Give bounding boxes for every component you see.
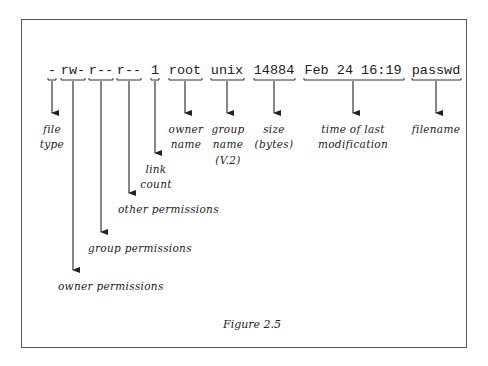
- label-group-name-3: (V.2): [215, 154, 240, 166]
- field-file-type: -: [48, 63, 56, 78]
- field-mtime: Feb 24 16:19: [304, 63, 401, 78]
- field-owner-name: root: [169, 63, 201, 78]
- label-group-name-1: group: [211, 123, 244, 135]
- label-other-permissions: other permissions: [118, 203, 219, 215]
- label-time-2: modification: [318, 138, 388, 150]
- under-braces: [48, 78, 461, 80]
- label-owner-name-2: name: [171, 138, 201, 150]
- ls-listing-diagram: - rw- r-- r-- 1 root unix 14884 Feb 24 1…: [0, 0, 488, 366]
- field-filename: passwd: [412, 63, 461, 78]
- label-size-2: (bytes): [255, 138, 294, 150]
- field-group-name: unix: [211, 63, 243, 78]
- field-owner-perms: rw-: [61, 63, 85, 78]
- label-owner-permissions: owner permissions: [58, 280, 164, 292]
- label-size-1: size: [263, 123, 285, 135]
- labels: file type owner name group name (V.2) si…: [40, 123, 460, 331]
- label-file-type-2: type: [40, 138, 64, 150]
- label-owner-name-1: owner: [169, 123, 204, 135]
- label-group-permissions: group permissions: [88, 242, 192, 254]
- figure-caption: Figure 2.5: [222, 318, 281, 331]
- label-file-type-1: file: [42, 123, 61, 135]
- label-time-1: time of last: [321, 123, 385, 135]
- field-link-count: 1: [151, 63, 159, 78]
- label-filename: filename: [411, 123, 460, 135]
- field-size: 14884: [254, 63, 295, 78]
- label-link-count-1: link: [145, 163, 166, 175]
- ls-output-line: - rw- r-- r-- 1 root unix 14884 Feb 24 1…: [48, 63, 460, 78]
- label-group-name-2: name: [213, 138, 243, 150]
- field-other-perms: r--: [117, 63, 141, 78]
- label-link-count-2: count: [140, 178, 172, 190]
- field-group-perms: r--: [89, 63, 113, 78]
